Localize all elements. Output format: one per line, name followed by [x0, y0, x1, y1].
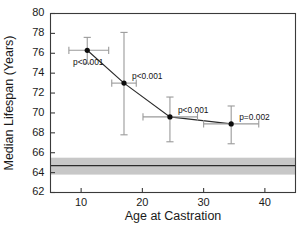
chart-figure: 6264666870727476788010203040Age at Castr…: [0, 0, 308, 239]
y-axis-tick-label: 66: [32, 146, 44, 158]
y-axis-tick-label: 64: [32, 166, 44, 178]
y-axis-tick-label: 74: [32, 66, 44, 78]
x-axis-title: Age at Castration: [125, 209, 222, 223]
x-axis-tick-label: 20: [136, 196, 148, 208]
y-axis-title: Median Lifespan (Years): [2, 35, 16, 170]
data-point-marker: [121, 81, 126, 86]
y-axis-tick-label: 80: [32, 6, 44, 18]
x-axis-tick-label: 10: [75, 196, 87, 208]
x-axis-tick-label: 40: [259, 196, 271, 208]
data-point-marker: [229, 121, 234, 126]
y-axis-tick-label: 76: [32, 46, 44, 58]
y-axis-tick-label: 78: [32, 26, 44, 38]
y-axis-tick-label: 72: [32, 86, 44, 98]
y-axis-tick-label: 62: [32, 185, 44, 197]
y-axis-tick-label: 68: [32, 126, 44, 138]
x-axis-tick-label: 30: [198, 196, 210, 208]
p-value-annotation: p<0.001: [73, 57, 104, 67]
p-value-annotation: p=0.002: [239, 112, 270, 122]
data-point-marker: [167, 114, 172, 119]
y-axis-tick-label: 70: [32, 106, 44, 118]
p-value-annotation: p<0.001: [178, 105, 209, 115]
p-value-annotation: p<0.001: [132, 71, 163, 81]
data-point-marker: [85, 48, 90, 53]
median-lifespan-vs-age-at-castration-chart: 6264666870727476788010203040Age at Castr…: [0, 0, 308, 239]
